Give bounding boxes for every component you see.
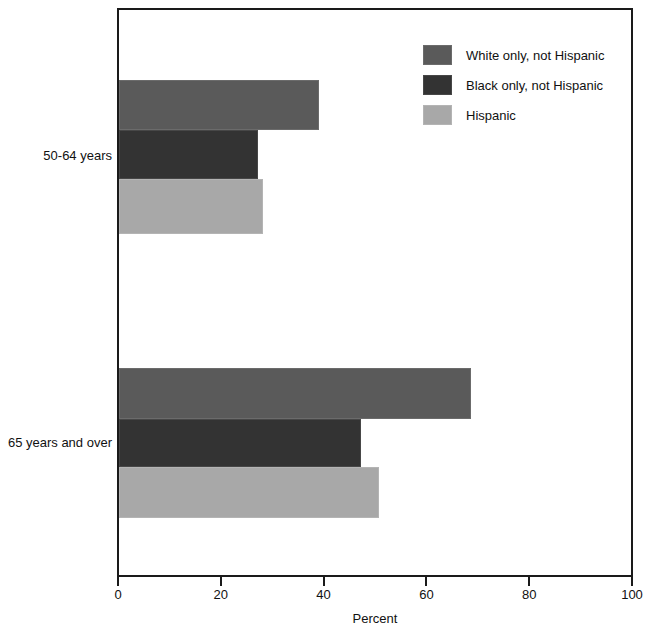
bar-group0-white [119,80,319,130]
bar-group0-black [119,130,258,179]
legend-label: White only, not Hispanic [466,49,605,62]
x-axis-tick [117,577,119,586]
x-axis-tick-label: 20 [214,588,228,601]
legend-entry-hispanic: Hispanic [423,100,633,130]
chart-legend: White only, not Hispanic Black only, not… [423,40,633,130]
bar-group1-white [119,368,471,419]
x-axis-tick-label: 100 [621,588,643,601]
chart-figure: 50-64 years 65 years and over White only… [0,0,652,638]
legend-label: Hispanic [466,109,516,122]
legend-swatch-icon [423,45,452,65]
x-axis-ticks: 020406080100 [117,577,633,587]
x-axis-tick [528,577,530,586]
legend-entry-white: White only, not Hispanic [423,40,633,70]
x-axis-tick-label: 60 [419,588,433,601]
x-axis-tick-label: 80 [522,588,536,601]
y-axis-label-group-0: 50-64 years [0,149,112,162]
y-axis-label-text: 50-64 years [43,148,112,163]
legend-swatch-icon [423,75,452,95]
bar-group0-hispanic [119,179,263,234]
y-axis-label-group-1: 65 years and over [0,436,112,449]
x-axis-tick [631,577,633,586]
x-axis-tick-label: 0 [114,588,121,601]
bar-group1-hispanic [119,467,379,518]
bar-group1-black [119,419,361,467]
x-axis-tick-label: 40 [316,588,330,601]
x-axis-tick [220,577,222,586]
x-axis-tick [425,577,427,586]
legend-entry-black: Black only, not Hispanic [423,70,633,100]
legend-swatch-icon [423,105,452,125]
legend-label: Black only, not Hispanic [466,79,603,92]
x-axis-tick [323,577,325,586]
x-axis-title: Percent [117,612,633,625]
y-axis-label-text: 65 years and over [8,435,112,450]
plot-frame: White only, not Hispanic Black only, not… [117,8,633,577]
